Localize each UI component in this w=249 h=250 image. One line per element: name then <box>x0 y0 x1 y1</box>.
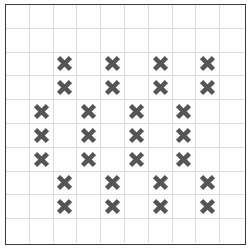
grid-cell <box>220 219 244 243</box>
grid-cell <box>54 172 78 196</box>
grid-cell <box>125 29 149 53</box>
grid-cell <box>77 195 101 219</box>
grid-cell <box>196 5 220 29</box>
x-mark-icon <box>152 55 169 72</box>
grid-cell <box>30 76 54 100</box>
x-mark-icon <box>128 151 145 168</box>
grid-cell <box>77 5 101 29</box>
x-mark-icon <box>175 103 192 120</box>
x-mark-icon <box>104 55 121 72</box>
grid-cell <box>77 148 101 172</box>
grid-cell <box>6 172 30 196</box>
x-mark-icon <box>175 151 192 168</box>
x-mark-icon <box>80 103 97 120</box>
grid-cell <box>196 148 220 172</box>
grid-cell <box>30 172 54 196</box>
grid-cell <box>173 5 197 29</box>
grid-cell <box>125 76 149 100</box>
grid-cell <box>6 29 30 53</box>
grid-cell <box>149 219 173 243</box>
grid-cell <box>173 29 197 53</box>
grid-cell <box>101 124 125 148</box>
grid-cell <box>149 195 173 219</box>
grid-cell <box>173 219 197 243</box>
grid-cell <box>30 219 54 243</box>
grid-cell <box>30 148 54 172</box>
grid-cell <box>196 195 220 219</box>
x-mark-icon <box>56 198 73 215</box>
grid-cell <box>6 195 30 219</box>
grid-cell <box>6 100 30 124</box>
grid-cell <box>220 195 244 219</box>
grid-cell <box>173 124 197 148</box>
grid-cell <box>220 124 244 148</box>
grid-cell <box>149 5 173 29</box>
grid-cell <box>125 219 149 243</box>
grid-cell <box>101 148 125 172</box>
grid-cell <box>54 53 78 77</box>
grid-cell <box>30 5 54 29</box>
x-mark-icon <box>199 198 216 215</box>
grid-cell <box>149 29 173 53</box>
grid-cell <box>6 76 30 100</box>
grid-cell <box>30 100 54 124</box>
grid-cell <box>77 219 101 243</box>
grid-cell <box>101 100 125 124</box>
x-mark-icon <box>128 103 145 120</box>
x-mark-icon <box>80 127 97 144</box>
grid-cell <box>77 100 101 124</box>
grid-cell <box>6 5 30 29</box>
x-mark-icon <box>128 127 145 144</box>
grid-cell <box>54 195 78 219</box>
grid-cell <box>149 124 173 148</box>
x-mark-icon <box>199 174 216 191</box>
x-mark-icon <box>33 151 50 168</box>
grid-cell <box>6 148 30 172</box>
x-mark-icon <box>152 79 169 96</box>
grid-cell <box>125 100 149 124</box>
grid-cell <box>125 172 149 196</box>
grid-cell <box>173 195 197 219</box>
grid-cell <box>77 29 101 53</box>
grid-cell <box>125 53 149 77</box>
grid-cell <box>77 53 101 77</box>
grid-cell <box>173 53 197 77</box>
x-mark-icon <box>199 55 216 72</box>
grid-cell <box>30 124 54 148</box>
grid-cell <box>149 148 173 172</box>
grid-cell <box>196 29 220 53</box>
x-mark-icon <box>104 174 121 191</box>
grid-cell <box>54 100 78 124</box>
grid-cell <box>6 53 30 77</box>
grid-cell <box>196 76 220 100</box>
grid-cell <box>149 100 173 124</box>
x-mark-icon <box>33 103 50 120</box>
grid-cell <box>149 76 173 100</box>
grid-cell <box>220 148 244 172</box>
grid-cell <box>125 124 149 148</box>
grid-cell <box>173 76 197 100</box>
grid-cell <box>173 100 197 124</box>
grid-cell <box>6 219 30 243</box>
grid-board <box>5 4 246 245</box>
grid-cell <box>54 29 78 53</box>
grid-cell <box>125 5 149 29</box>
grid-cell <box>220 76 244 100</box>
grid-cell <box>196 124 220 148</box>
grid-cell <box>54 219 78 243</box>
grid-cell <box>6 124 30 148</box>
x-mark-icon <box>175 127 192 144</box>
grid-cell <box>220 53 244 77</box>
grid-cell <box>220 5 244 29</box>
x-mark-icon <box>104 79 121 96</box>
grid-cell <box>125 148 149 172</box>
grid-cell <box>77 172 101 196</box>
grid-cell <box>196 219 220 243</box>
grid-cells <box>6 5 245 244</box>
grid-cell <box>149 53 173 77</box>
x-mark-icon <box>199 79 216 96</box>
grid-cell <box>30 53 54 77</box>
grid-cell <box>173 148 197 172</box>
grid-cell <box>54 5 78 29</box>
grid-cell <box>173 172 197 196</box>
